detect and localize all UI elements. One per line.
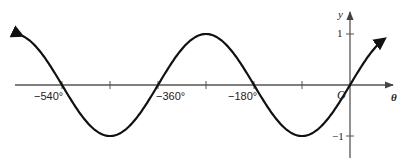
sine-graph xyxy=(0,0,409,167)
y-tick-label-1: 1 xyxy=(337,28,343,39)
x-axis-label: θ xyxy=(391,92,397,103)
x-tick-label-360: −360° xyxy=(156,91,185,102)
y-axis-label: y xyxy=(338,9,343,20)
x-tick-label-540: −540° xyxy=(34,91,63,102)
x-tick-label-180: −180° xyxy=(228,91,257,102)
origin-label: O xyxy=(337,89,346,101)
y-tick-label-neg1: −1 xyxy=(332,131,344,142)
